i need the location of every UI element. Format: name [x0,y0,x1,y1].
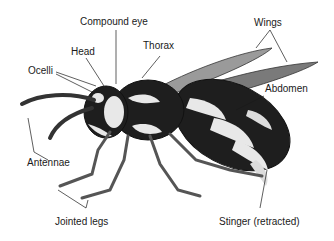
label-stinger: Stinger (retracted) [219,217,300,227]
label-wings: Wings [254,18,282,28]
wasp-illustration [0,0,334,241]
label-antennae: Antennae [27,158,70,168]
wasp-anatomy-diagram: Compound eye Head Ocelli Thorax Wings Ab… [0,0,334,241]
label-thorax: Thorax [143,41,174,51]
label-jointed-legs: Jointed legs [55,217,108,227]
head-shape [84,86,128,138]
antennae-shape [22,95,94,138]
label-ocelli: Ocelli [28,66,53,76]
label-head: Head [71,47,95,57]
label-compound-eye: Compound eye [80,17,148,27]
label-abdomen: Abdomen [265,84,308,94]
